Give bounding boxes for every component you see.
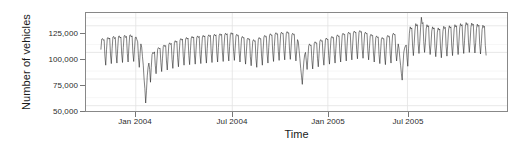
y-tick-label-75000: 75,000 <box>30 81 78 90</box>
x-tick-label-jan-2005: Jan 2005 <box>311 117 345 126</box>
chart-figure: Number of vehicles 125,000 100,000 75,00… <box>0 0 524 151</box>
y-tick-label-50000: 50,000 <box>30 107 78 116</box>
x-tick-label-jan-2004: Jan 2004 <box>118 117 152 126</box>
y-tick-label-125000: 125,000 <box>30 29 78 38</box>
gridlines <box>86 13 507 111</box>
series-line-number-of-vehicles <box>101 17 486 103</box>
series-group <box>101 17 486 103</box>
plot-panel <box>85 12 508 112</box>
y-tick-label-100000: 100,000 <box>30 55 78 64</box>
x-tick-label-jul-2005: Jul 2005 <box>392 117 423 126</box>
x-tick-label-jul-2004: Jul 2004 <box>216 117 247 126</box>
x-axis-title: Time <box>85 128 508 140</box>
plot-area <box>86 13 507 111</box>
